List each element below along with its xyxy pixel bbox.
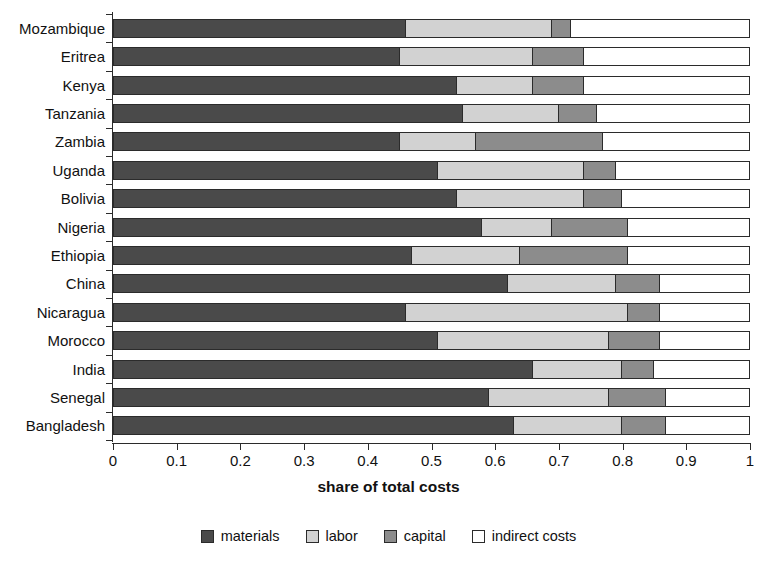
bar-segment-capital <box>520 247 628 264</box>
legend-item: labor <box>306 528 358 544</box>
bar-row <box>113 76 750 95</box>
category-label: Nigeria <box>0 218 105 237</box>
bar-segment-capital <box>616 275 660 292</box>
bar-segment-labor <box>400 133 476 150</box>
bar-segment-indirect-costs <box>622 190 749 207</box>
bar-segment-materials <box>114 20 406 37</box>
category-label: China <box>0 274 105 293</box>
bar-segment-indirect-costs <box>603 133 749 150</box>
x-axis-tick-label: 0.7 <box>529 452 589 469</box>
bar-segment-labor <box>412 247 520 264</box>
bar-segment-capital <box>609 332 660 349</box>
x-axis-tick <box>177 443 178 450</box>
plot-area <box>113 14 750 440</box>
bar-segment-labor <box>438 162 584 179</box>
x-axis-tick <box>495 443 496 450</box>
bar-segment-labor <box>533 361 622 378</box>
bar-segment-materials <box>114 48 400 65</box>
x-axis-tick <box>304 443 305 450</box>
chart-legend: materialslaborcapitalindirect costs <box>0 528 777 544</box>
bar-segment-materials <box>114 247 412 264</box>
bar-segment-indirect-costs <box>584 48 749 65</box>
bar-segment-capital <box>533 77 584 94</box>
category-label: Mozambique <box>0 19 105 38</box>
legend-item: capital <box>384 528 446 544</box>
x-axis-tick-label: 1 <box>720 452 777 469</box>
y-axis-tick <box>106 270 113 271</box>
legend-swatch-icon <box>306 530 319 543</box>
y-axis-tick <box>106 42 113 43</box>
bar-segment-materials <box>114 219 482 236</box>
legend-swatch-icon <box>384 530 397 543</box>
bar-segment-indirect-costs <box>660 304 749 321</box>
y-axis-tick <box>106 355 113 356</box>
bar-segment-labor <box>489 389 610 406</box>
bar-segment-labor <box>482 219 552 236</box>
bar-row <box>113 19 750 38</box>
bar-row <box>113 104 750 123</box>
bar-segment-indirect-costs <box>666 389 749 406</box>
bar-segment-capital <box>584 190 622 207</box>
y-axis-tick <box>106 241 113 242</box>
bar-segment-labor <box>438 332 609 349</box>
bar-segment-materials <box>114 389 489 406</box>
bar-row <box>113 303 750 322</box>
category-label: Tanzania <box>0 104 105 123</box>
bar-segment-labor <box>457 77 533 94</box>
bar-row <box>113 218 750 237</box>
bar-segment-capital <box>622 417 666 434</box>
x-axis-title: share of total costs <box>0 478 777 496</box>
category-label: Ethiopia <box>0 246 105 265</box>
category-label: Uganda <box>0 161 105 180</box>
bar-segment-labor <box>508 275 616 292</box>
y-axis-tick <box>106 99 113 100</box>
bar-segment-indirect-costs <box>660 275 749 292</box>
bar-segment-materials <box>114 133 400 150</box>
x-axis-tick-label: 0.1 <box>147 452 207 469</box>
bar-segment-capital <box>552 20 571 37</box>
x-axis-tick <box>559 443 560 450</box>
x-axis-tick <box>368 443 369 450</box>
bar-row <box>113 274 750 293</box>
bar-segment-materials <box>114 105 463 122</box>
legend-label: materials <box>221 528 280 544</box>
bar-segment-indirect-costs <box>654 361 749 378</box>
x-axis-tick <box>432 443 433 450</box>
x-axis-tick-label: 0 <box>83 452 143 469</box>
legend-item: indirect costs <box>472 528 577 544</box>
bar-segment-indirect-costs <box>660 332 749 349</box>
y-axis-tick <box>106 298 113 299</box>
x-axis-tick <box>623 443 624 450</box>
y-axis-tick <box>106 128 113 129</box>
legend-swatch-icon <box>201 530 214 543</box>
y-axis-tick <box>106 412 113 413</box>
category-label: Senegal <box>0 388 105 407</box>
bar-segment-capital <box>628 304 660 321</box>
bar-segment-labor <box>400 48 533 65</box>
category-label: Bangladesh <box>0 416 105 435</box>
category-label: Zambia <box>0 132 105 151</box>
bar-row <box>113 416 750 435</box>
bar-segment-materials <box>114 304 406 321</box>
x-axis-tick-label: 0.6 <box>465 452 525 469</box>
bar-segment-labor <box>457 190 584 207</box>
bar-segment-indirect-costs <box>628 247 749 264</box>
bar-segment-indirect-costs <box>597 105 749 122</box>
x-axis-tick-label: 0.4 <box>338 452 398 469</box>
category-label: India <box>0 360 105 379</box>
legend-label: labor <box>326 528 358 544</box>
x-axis-tick-label: 0.9 <box>656 452 716 469</box>
x-axis-tick <box>113 443 114 450</box>
x-axis-tick-label: 0.8 <box>593 452 653 469</box>
x-axis-tick <box>240 443 241 450</box>
bar-segment-labor <box>514 417 622 434</box>
bar-segment-capital <box>476 133 603 150</box>
y-axis-tick <box>106 71 113 72</box>
y-axis-tick <box>106 14 113 15</box>
x-axis-tick <box>686 443 687 450</box>
y-axis-tick <box>106 326 113 327</box>
bar-segment-indirect-costs <box>666 417 749 434</box>
y-axis-tick <box>106 383 113 384</box>
bar-segment-capital <box>559 105 597 122</box>
bar-segment-capital <box>622 361 654 378</box>
